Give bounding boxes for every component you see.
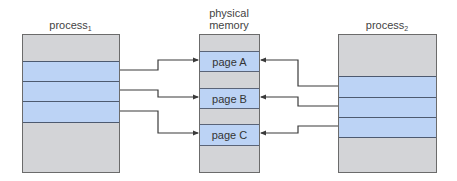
arrow-p2-to-page-a <box>261 60 338 86</box>
arrow-p1-to-page-b <box>120 90 198 97</box>
mapping-arrows <box>0 0 457 181</box>
arrow-p1-to-page-a <box>120 60 198 70</box>
arrow-p1-to-page-c <box>120 111 198 133</box>
arrow-p2-to-page-b <box>261 97 338 106</box>
arrow-p2-to-page-c <box>261 126 338 133</box>
